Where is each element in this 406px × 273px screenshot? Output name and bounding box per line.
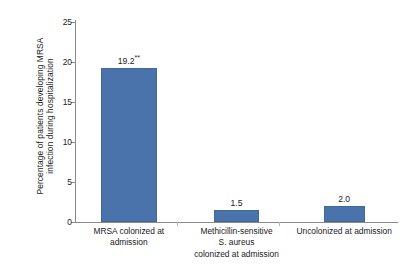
category-line: Methicillin-sensitive [178, 226, 296, 237]
bar-uncolonized[interactable]: 2.0 [324, 206, 365, 222]
category-line: admission [70, 237, 188, 248]
plot-area: 0 5 10 15 20 25 19.2** [75, 22, 398, 222]
significance-marker: ** [134, 55, 139, 62]
y-tick-label: 25 [63, 17, 72, 27]
x-axis-line [75, 222, 398, 223]
bar-value-number: 2.0 [338, 194, 350, 204]
x-category-label-2: Uncolonized at admission [285, 226, 403, 237]
bar-value-label-2: 2.0 [338, 194, 350, 204]
bar-value-number: 1.5 [231, 198, 243, 208]
category-line: colonized at admission [178, 249, 296, 260]
bar-value-number: 19.2 [118, 56, 135, 66]
category-line: S. aureus [178, 237, 296, 248]
y-axis-title: Percentage of patients developing MRSA i… [30, 0, 60, 232]
bar-mrsa-colonized[interactable]: 19.2** [101, 68, 157, 222]
bar-mssa-colonized[interactable]: 1.5 [214, 210, 259, 222]
x-category-label-0: MRSA colonized at admission [70, 226, 188, 249]
y-axis-title-line-2: infection during hospitalization [45, 58, 56, 173]
bar-chart: Percentage of patients developing MRSA i… [0, 0, 406, 273]
y-tick-label: 10 [63, 137, 72, 147]
y-tick-label: 20 [63, 57, 72, 67]
x-category-label-1: Methicillin-sensitive S. aureus colonize… [178, 226, 296, 260]
bar-value-label-1: 1.5 [231, 198, 243, 208]
bar-value-label-0: 19.2** [118, 56, 140, 66]
y-tick-label: 5 [67, 177, 72, 187]
y-tick-label: 15 [63, 97, 72, 107]
category-line: Uncolonized at admission [285, 226, 403, 237]
category-line: MRSA colonized at [70, 226, 188, 237]
y-axis-title-line-1: Percentage of patients developing MRSA [35, 38, 46, 195]
